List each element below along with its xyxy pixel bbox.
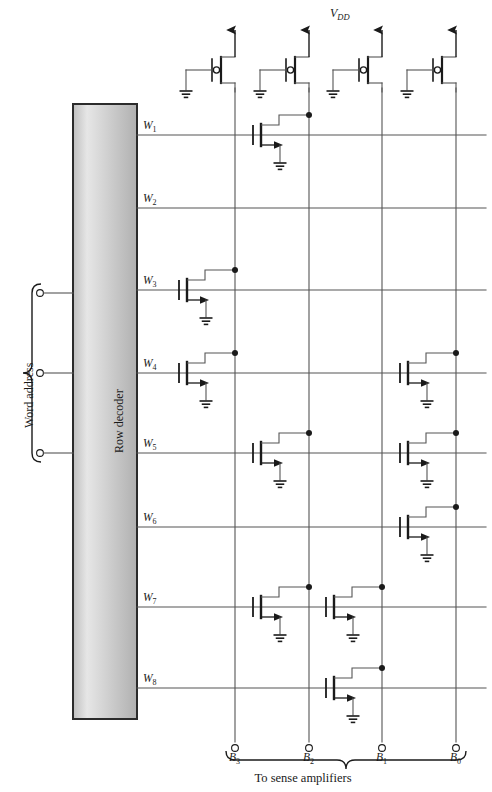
rom-cell-w4-b3-bitline-junction — [232, 350, 238, 356]
bit-line-label-sub: 2 — [310, 757, 314, 766]
rom-cell-w6-b0-bitline-junction — [453, 504, 459, 510]
word-line-label-sub: 3 — [153, 280, 157, 289]
bit-line-label-1: B1 — [376, 751, 387, 766]
word-line-label-8: W8 — [143, 672, 157, 687]
word-line-label-1: W1 — [143, 119, 157, 134]
bit-line-label-3: B3 — [229, 751, 240, 766]
word-line-label-text: W — [143, 274, 153, 286]
word-line-label-sub: 4 — [153, 363, 157, 372]
rom-cell-w5-b0-source-arrow — [421, 459, 430, 467]
rom-cell-w4-b0-source-ground — [421, 401, 434, 407]
word-line-label-sub: 2 — [153, 198, 157, 207]
rom-cell-w1-b2-source-ground — [274, 163, 287, 169]
sense-amplifier-brace — [226, 751, 466, 769]
word-address-terminal-3[interactable] — [37, 450, 44, 457]
rom-cell-w3-b3-drain-lead — [187, 270, 235, 280]
word-line-label-sub: 6 — [153, 517, 157, 526]
rom-cell-w1-b2-source-arrow — [274, 141, 283, 149]
word-line-label-sub: 8 — [153, 678, 157, 687]
pmos-load-b0-gate-bubble — [434, 67, 440, 73]
rom-cell-w3-b3-source-ground — [200, 318, 213, 324]
rom-cell-w4-b0-drain-lead — [408, 353, 456, 363]
bit-line-label-sub: 3 — [236, 757, 240, 766]
rom-cell-w7-b2-drain-lead — [261, 587, 309, 597]
rom-cell-w6-b0-drain-lead — [408, 507, 456, 517]
word-line-label-sub: 7 — [153, 597, 157, 606]
sense-amplifiers-label: To sense amplifiers — [254, 771, 351, 786]
rom-cell-w5-b2-drain-lead — [261, 433, 309, 443]
row-decoder-box[interactable] — [73, 104, 137, 719]
word-line-label-6: W6 — [143, 511, 157, 526]
bit-line-label-0: B0 — [450, 751, 461, 766]
rom-cell-w5-b2-source-arrow — [274, 459, 283, 467]
rom-array-figure: VDD Row decoder Word address To sense am… — [0, 0, 492, 792]
rom-cell-w6-b0-source-arrow — [421, 533, 430, 541]
pmos-load-b3-gate-bubble — [213, 67, 219, 73]
rom-cell-w5-b2-source-ground — [274, 481, 287, 487]
word-line-label-text: W — [143, 192, 153, 204]
rom-cell-w5-b0-drain-lead — [408, 433, 456, 443]
vdd-label: VDD — [330, 6, 350, 22]
bit-line-label-text: B — [229, 751, 236, 763]
rom-cell-w8-b1-source-ground — [347, 716, 360, 722]
bit-line-label-sub: 1 — [383, 757, 387, 766]
rom-cell-w7-b1-drain-lead — [334, 587, 382, 597]
bit-line-label-text: B — [303, 751, 310, 763]
pmos-load-b3-gate-ground — [180, 91, 193, 97]
schematic-generated-geometry — [23, 30, 486, 769]
rom-cell-w4-b3-drain-lead — [187, 353, 235, 363]
word-line-label-4: W4 — [143, 357, 157, 372]
word-line-label-5: W5 — [143, 437, 157, 452]
rom-cell-w1-b2-bitline-junction — [306, 112, 312, 118]
rom-cell-w8-b1-source-arrow — [347, 694, 356, 702]
schematic-canvas — [0, 0, 492, 792]
rom-cell-w4-b3-source-arrow — [200, 379, 209, 387]
rom-cell-w7-b1-source-arrow — [347, 613, 356, 621]
word-line-label-text: W — [143, 437, 153, 449]
rom-cell-w4-b0-source-arrow — [421, 379, 430, 387]
bit-line-label-sub: 0 — [457, 757, 461, 766]
word-line-label-text: W — [143, 511, 153, 523]
rom-cell-w8-b1-drain-lead — [334, 668, 382, 678]
rom-cell-w3-b3-source-arrow — [200, 296, 209, 304]
rom-cell-w7-b2-source-arrow — [274, 613, 283, 621]
rom-cell-w6-b0-source-ground — [421, 555, 434, 561]
word-line-label-text: W — [143, 119, 153, 131]
word-address-terminal-2[interactable] — [37, 370, 44, 377]
rom-cell-w7-b1-bitline-junction — [379, 584, 385, 590]
word-line-label-text: W — [143, 591, 153, 603]
rom-cell-w4-b0-bitline-junction — [453, 350, 459, 356]
pmos-load-b1-gate-bubble — [360, 67, 366, 73]
pmos-load-b2-gate-ground — [254, 91, 267, 97]
bit-line-label-text: B — [450, 751, 457, 763]
word-line-label-7: W7 — [143, 591, 157, 606]
rom-cell-w5-b2-bitline-junction — [306, 430, 312, 436]
rom-cell-w7-b2-bitline-junction — [306, 584, 312, 590]
bit-line-label-2: B2 — [303, 751, 314, 766]
rom-cell-w7-b2-source-ground — [274, 635, 287, 641]
word-line-label-text: W — [143, 672, 153, 684]
rom-cell-w7-b1-source-ground — [347, 635, 360, 641]
rom-cell-w3-b3-bitline-junction — [232, 267, 238, 273]
bit-line-label-text: B — [376, 751, 383, 763]
rom-cell-w5-b0-bitline-junction — [453, 430, 459, 436]
word-line-label-text: W — [143, 357, 153, 369]
rom-cell-w8-b1-bitline-junction — [379, 665, 385, 671]
rom-cell-w4-b3-source-ground — [200, 401, 213, 407]
pmos-load-b2-gate-bubble — [287, 67, 293, 73]
word-address-terminal-1[interactable] — [37, 290, 44, 297]
word-address-label: Word address — [22, 363, 37, 428]
word-line-label-sub: 1 — [153, 125, 157, 134]
pmos-load-b1-gate-ground — [327, 91, 340, 97]
pmos-load-b0-gate-ground — [401, 91, 414, 97]
word-line-label-sub: 5 — [153, 443, 157, 452]
rom-cell-w1-b2-drain-lead — [261, 115, 309, 125]
word-line-label-3: W3 — [143, 274, 157, 289]
row-decoder-label: Row decoder — [112, 389, 127, 453]
rom-cell-w5-b0-source-ground — [421, 481, 434, 487]
word-line-label-2: W2 — [143, 192, 157, 207]
